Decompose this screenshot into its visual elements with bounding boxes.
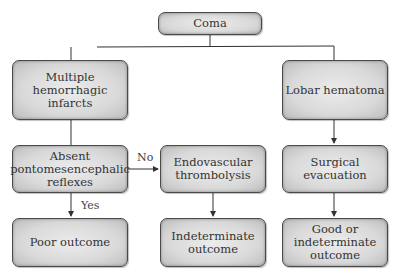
node-absent-reflexes-label: Absent pontomesencephalic reflexes bbox=[10, 150, 130, 189]
node-surgical-evacuation: Surgical evacuation bbox=[282, 145, 388, 193]
edge-label-yes: Yes bbox=[81, 199, 99, 212]
node-multiple-hemorrhagic-infarcts: Multiple hemorrhagic infarcts bbox=[12, 60, 128, 120]
node-lobar-hematoma-label: Lobar hematoma bbox=[285, 84, 384, 97]
node-good-or-indeterminate-label: Good or indeterminate outcome bbox=[294, 223, 376, 262]
node-multiple-infarcts-label: Multiple hemorrhagic infarcts bbox=[33, 71, 108, 110]
node-good-or-indeterminate-outcome: Good or indeterminate outcome bbox=[282, 218, 388, 267]
node-lobar-hematoma: Lobar hematoma bbox=[282, 60, 388, 120]
node-endovascular-thrombolysis: Endovascular thrombolysis bbox=[160, 145, 266, 193]
node-indeterminate-outcome: Indeterminate outcome bbox=[160, 218, 266, 267]
node-coma-label: Coma bbox=[193, 17, 226, 30]
node-poor-outcome-label: Poor outcome bbox=[30, 236, 110, 249]
node-absent-reflexes: Absent pontomesencephalic reflexes bbox=[12, 145, 128, 193]
node-endovascular-label: Endovascular thrombolysis bbox=[173, 156, 252, 182]
node-indeterminate-outcome-label: Indeterminate outcome bbox=[171, 230, 254, 256]
node-surgical-label: Surgical evacuation bbox=[303, 156, 367, 182]
node-poor-outcome: Poor outcome bbox=[12, 218, 128, 267]
node-coma: Coma bbox=[158, 12, 262, 35]
edge-label-no: No bbox=[137, 151, 153, 164]
